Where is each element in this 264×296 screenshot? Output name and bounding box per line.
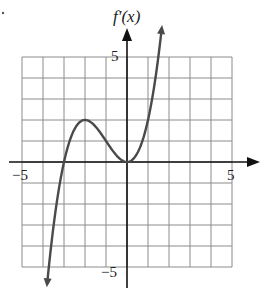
x-min-tick-label: −5 <box>12 167 28 183</box>
y-axis-function-label: f′(x) <box>113 7 141 26</box>
curve-arrow-down-icon <box>44 278 52 287</box>
x-max-tick-label: 5 <box>227 167 235 183</box>
curve-arrow-up-icon <box>157 25 165 34</box>
y-min-tick-label: −5 <box>101 264 117 280</box>
y-max-tick-label: 5 <box>111 48 119 64</box>
derivative-graph: f′(x) 5 −5 −5 5 <box>0 0 264 296</box>
y-axis-arrow-icon <box>122 28 132 41</box>
x-axis-arrow-icon <box>247 157 260 167</box>
scan-mark <box>2 12 4 14</box>
